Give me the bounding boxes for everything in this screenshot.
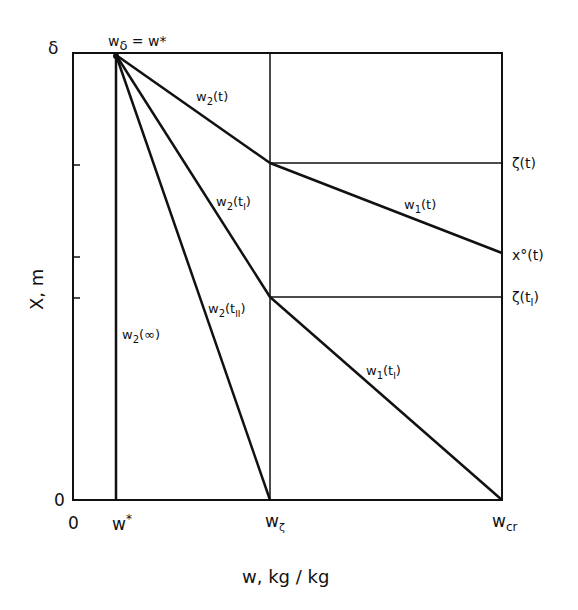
curve-w2-t: [116, 55, 270, 163]
label-w1-tI: w1(tI): [366, 364, 401, 381]
label-w2-inf: w2(∞): [122, 328, 160, 345]
x-tick-label-w-star: w*: [112, 513, 132, 533]
x-tick-label-zero: 0: [68, 515, 79, 532]
x-tick-label-w-zeta: wζ: [265, 513, 285, 533]
label-w1-t: w1(t): [404, 198, 436, 215]
y-tick-label-delta: δ: [48, 40, 58, 57]
label-w2-tII: w2(tII): [208, 302, 246, 319]
curve-w2-tI: [116, 55, 270, 297]
label-zeta-tI: ζ(tI): [512, 290, 539, 308]
label-w2-tI: w2(tI): [216, 195, 251, 212]
x-tick-label-w-cr: wcr: [492, 513, 517, 533]
top-label-w-delta: wδ = w*: [108, 34, 167, 52]
curve-w1-t: [270, 163, 502, 253]
y-tick-label-zero: 0: [54, 492, 65, 509]
x-axis-title: w, kg / kg: [242, 568, 329, 586]
curve-w1-tI: [270, 297, 502, 500]
label-zeta-t: ζ(t): [512, 156, 536, 170]
label-x0-t: x°(t): [512, 248, 544, 262]
label-w2-t: w2(t): [196, 90, 228, 107]
curve-w2-tII: [116, 55, 270, 500]
y-axis-title: X, m: [28, 269, 46, 310]
origin-point: [113, 53, 119, 59]
